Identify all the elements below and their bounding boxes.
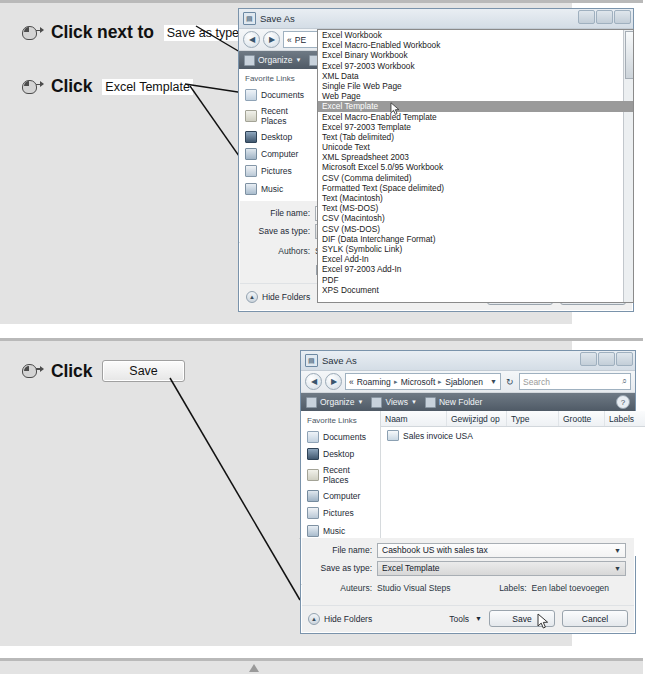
dropdown-option[interactable]: PDF <box>318 275 633 285</box>
file-list-row[interactable]: Sales invoice USA <box>381 427 645 444</box>
save-as-dialog-1[interactable]: ▤ Save As ◀ ▶ « PE ▼ Organize ▼ Favorite… <box>238 8 634 312</box>
breadcrumb-item-microsoft[interactable]: Microsoft <box>401 377 435 387</box>
back-button[interactable]: ◀ <box>243 31 260 48</box>
dropdown-option[interactable]: XML Data <box>318 71 633 81</box>
chevron-down-icon[interactable]: ▼ <box>614 565 621 572</box>
dropdown-option[interactable]: Web Page <box>318 91 633 101</box>
chevron-down-icon[interactable]: ▼ <box>614 547 621 554</box>
chevron-down-icon[interactable]: ▼ <box>490 378 497 385</box>
recent-places-icon <box>307 469 319 481</box>
dropdown-option[interactable]: Excel 97-2003 Workbook <box>318 61 633 71</box>
organize-menu[interactable]: Organize ▼ <box>306 397 363 408</box>
cancel-button[interactable]: Cancel <box>562 610 628 627</box>
dropdown-option[interactable]: Excel Binary Workbook <box>318 50 633 60</box>
panel-step-1: Click next to Save as type: Click Excel … <box>0 0 643 324</box>
dialog-body: Favorite Links Documents Desktop Recent … <box>301 411 635 556</box>
hide-folders-button[interactable]: ▲Hide Folders <box>308 613 372 625</box>
help-icon[interactable]: ? <box>616 395 630 409</box>
authors-label: Authors: <box>240 246 315 256</box>
savetype-value: Excel Template <box>382 563 439 573</box>
dropdown-option[interactable]: Excel 97-2003 Template <box>318 122 633 132</box>
breadcrumb-item-roaming[interactable]: Roaming <box>357 377 391 387</box>
minimize-button <box>578 10 595 24</box>
column-header-naam[interactable]: Naam <box>381 411 447 426</box>
dropdown-option[interactable]: Excel 97-2003 Add-In <box>318 264 633 274</box>
instruction-target-button: Save <box>102 360 185 382</box>
tags-value[interactable]: Een label toevoegen <box>532 583 610 593</box>
sidebar-item-music[interactable]: Music <box>301 522 380 539</box>
sidebar-item-documents[interactable]: Documents <box>301 428 380 445</box>
chevron-down-icon: ▼ <box>475 615 482 622</box>
scrollbar-thumb[interactable] <box>625 31 634 79</box>
sidebar-item-pictures[interactable]: Pictures <box>301 505 380 522</box>
column-header-grootte[interactable]: Grootte <box>559 411 605 426</box>
dropdown-option[interactable]: Single File Web Page <box>318 81 633 91</box>
dropdown-scrollbar[interactable] <box>623 30 633 302</box>
sidebar-item-desktop[interactable]: Desktop <box>301 445 380 462</box>
sidebar-item-recent-places[interactable]: Recent Places <box>239 103 318 128</box>
dropdown-option[interactable]: Unicode Text <box>318 142 633 152</box>
breadcrumb-chevron-icon: ▸ <box>438 378 442 386</box>
window-buttons[interactable] <box>578 10 631 24</box>
organize-menu[interactable]: Organize ▼ <box>244 55 301 66</box>
sidebar-item-computer[interactable]: Computer <box>301 488 380 505</box>
instruction-row-3: Click Save <box>22 360 185 382</box>
file-list-area[interactable]: Naam Gewijzigd op Type Grootte Labels Sa… <box>381 411 645 556</box>
dropdown-option[interactable]: Text (MS-DOS) <box>318 203 633 213</box>
instruction-verb: Click <box>51 76 92 97</box>
back-button[interactable]: ◀ <box>305 373 322 390</box>
savetype-select[interactable]: Excel Template▼ <box>377 561 626 576</box>
column-header-labels[interactable]: Labels <box>605 411 645 426</box>
column-header-type[interactable]: Type <box>507 411 559 426</box>
save-button[interactable]: Save <box>489 610 555 627</box>
breadcrumb-item[interactable]: PE <box>295 35 306 45</box>
forward-button[interactable]: ▶ <box>263 31 280 48</box>
dropdown-option[interactable]: Text (Macintosh) <box>318 193 633 203</box>
dropdown-option[interactable]: Excel Workbook <box>318 30 633 40</box>
dropdown-option[interactable]: Microsoft Excel 5.0/95 Workbook <box>318 162 633 172</box>
organize-label: Organize <box>258 55 293 65</box>
dropdown-option[interactable]: DIF (Data Interchange Format) <box>318 234 633 244</box>
window-buttons[interactable] <box>580 352 633 366</box>
sidebar-item-recent-places[interactable]: Recent Places <box>301 462 380 487</box>
dropdown-option[interactable]: XPS Document <box>318 285 633 295</box>
sidebar-item-documents[interactable]: Documents <box>239 86 318 103</box>
dropdown-option[interactable]: Formatted Text (Space delimited) <box>318 183 633 193</box>
hide-folders-button[interactable]: ▲Hide Folders <box>246 291 310 303</box>
save-as-dialog-2[interactable]: ▤ Save As ◀ ▶ « Roaming ▸ Microsoft ▸ Sj… <box>300 350 636 634</box>
sidebar-item-music[interactable]: Music <box>239 180 318 197</box>
authors-value[interactable]: Studio Visual Steps <box>377 583 451 593</box>
dropdown-option[interactable]: CSV (Macintosh) <box>318 213 633 223</box>
forward-button[interactable]: ▶ <box>325 373 342 390</box>
refresh-icon[interactable]: ↻ <box>504 377 516 387</box>
new-folder-button[interactable]: New Folder <box>425 397 482 408</box>
column-header-gewijzigd[interactable]: Gewijzigd op <box>447 411 507 426</box>
save-as-type-dropdown[interactable]: Excel WorkbookExcel Macro-Enabled Workbo… <box>317 29 634 303</box>
dropdown-option[interactable]: XML Spreadsheet 2003 <box>318 152 633 162</box>
dropdown-option[interactable]: CSV (MS-DOS) <box>318 224 633 234</box>
dropdown-option[interactable]: Excel Macro-Enabled Workbook <box>318 40 633 50</box>
dropdown-option[interactable]: Excel Macro-Enabled Template <box>318 112 633 122</box>
dropdown-option[interactable]: Text (Tab delimited) <box>318 132 633 142</box>
sidebar-item-desktop[interactable]: Desktop <box>239 128 318 145</box>
computer-icon <box>245 148 257 160</box>
dropdown-option[interactable]: SYLK (Symbolic Link) <box>318 244 633 254</box>
views-menu[interactable]: Views ▼ <box>371 397 416 408</box>
filename-value: Cashbook US with sales tax <box>382 545 488 555</box>
hide-folders-label: Hide Folders <box>262 292 310 302</box>
organize-icon <box>306 397 317 408</box>
tools-menu[interactable]: Tools▼ <box>449 614 482 624</box>
minimize-button <box>580 352 597 366</box>
organize-label: Organize <box>320 397 355 407</box>
search-input[interactable]: Search ⌕ <box>519 373 631 390</box>
dropdown-option[interactable]: CSV (Comma delimited) <box>318 173 633 183</box>
sidebar-item-pictures[interactable]: Pictures <box>239 163 318 180</box>
dropdown-option[interactable]: Excel Template <box>318 101 633 111</box>
panel-1-top-rule <box>0 0 643 3</box>
breadcrumb-item-sjablonen[interactable]: Sjablonen <box>445 377 483 387</box>
sidebar-item-computer[interactable]: Computer <box>239 146 318 163</box>
dropdown-option[interactable]: Excel Add-In <box>318 254 633 264</box>
filename-input[interactable]: Cashbook US with sales tax▼ <box>377 543 626 558</box>
address-breadcrumb[interactable]: « Roaming ▸ Microsoft ▸ Sjablonen ▼ <box>345 373 501 390</box>
chevron-down-icon: ▼ <box>411 399 417 405</box>
